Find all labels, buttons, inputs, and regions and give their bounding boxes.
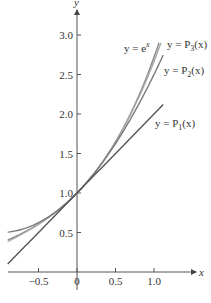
x-tick-label: 0.5 <box>109 275 123 287</box>
curve-P2 <box>8 55 164 232</box>
y-tick-label: 2.0 <box>59 108 73 120</box>
label-p2: y = P2(x) <box>164 64 204 79</box>
x-tick-label: −0.5 <box>29 275 49 287</box>
label-p3: y = P3(x) <box>167 38 207 53</box>
curve-P3 <box>8 43 161 242</box>
y-tick-label: 0.5 <box>59 227 73 239</box>
y-axis-label: y <box>73 0 79 8</box>
curve-exp <box>8 43 159 240</box>
curve-labels: y = ex y = P3(x) y = P2(x) y = P1(x) <box>124 38 207 132</box>
curves <box>8 43 164 264</box>
x-tick-label: 0 <box>74 275 80 287</box>
y-tick-label: 2.5 <box>59 69 73 81</box>
x-tick-label: 1.0 <box>147 275 161 287</box>
y-tick-label: 3.0 <box>59 29 73 41</box>
y-tick-label: 1.0 <box>59 187 73 199</box>
y-tick-label: 1.5 <box>59 148 73 160</box>
ticks: −0.500.51.00.51.01.52.02.53.0 <box>29 29 162 287</box>
x-axis-label: x <box>198 266 204 278</box>
curve-P1 <box>8 105 164 265</box>
label-exp: y = ex <box>124 40 150 54</box>
chart: x y −0.500.51.00.51.01.52.02.53.0 y = ex… <box>0 0 211 303</box>
label-p1: y = P1(x) <box>155 117 195 132</box>
